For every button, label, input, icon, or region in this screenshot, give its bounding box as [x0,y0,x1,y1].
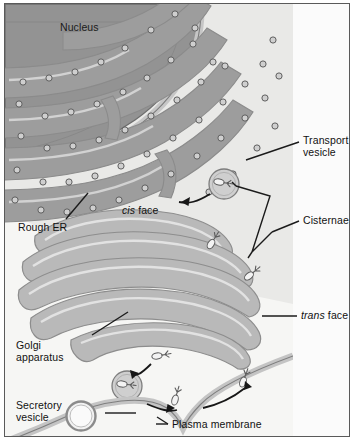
label-nucleus: Nucleus [60,22,99,34]
transport-vesicle-shape [209,169,239,199]
secretory-vesicle-shape [112,371,142,401]
secretory-vesicle-legend-shape [67,402,96,431]
label-cis-face: cis face [122,205,158,217]
label-golgi-apparatus: Golgi apparatus [16,340,64,363]
label-cisternae: Cisternae [303,215,349,227]
label-transport-vesicle: Transport vesicle [303,135,348,158]
figure-endomembrane-system: Nucleus Rough ER cis face Transport vesi… [0,0,356,442]
label-trans-face: trans face [301,310,348,322]
diagram-panel [5,4,293,436]
label-secretory-vesicle: Secretory vesicle [16,400,62,423]
label-plasma-membrane: Plasma membrane [172,419,262,431]
label-cis-face-rest: face [135,204,158,216]
diagram-artwork [5,4,293,436]
label-trans-face-rest: face [325,309,348,321]
label-rough-er: Rough ER [18,222,67,234]
label-cis-face-emph: cis [122,204,135,216]
label-trans-face-emph: trans [301,309,325,321]
